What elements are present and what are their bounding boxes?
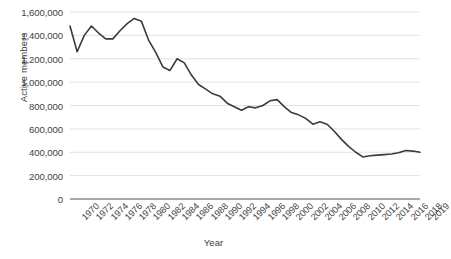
y-axis-tick-label: 400,000	[29, 147, 63, 158]
x-axis-title: Year	[0, 237, 427, 248]
y-axis-tick-label: 0	[58, 194, 63, 205]
data-series-line	[70, 18, 420, 157]
y-axis-tick-label: 1,000,000	[21, 77, 63, 88]
y-axis-tick-label: 600,000	[29, 123, 63, 134]
plot-svg	[70, 12, 420, 199]
y-axis-tick-labels: 1,600,0001,400,0001,200,0001,000,000800,…	[0, 0, 68, 205]
x-axis-tick-labels: 1970197219741976197819801982198419861988…	[70, 201, 422, 241]
y-axis-tick-label: 200,000	[29, 170, 63, 181]
y-axis-tick-label: 1,600,000	[21, 7, 63, 18]
y-axis-tick-label: 800,000	[29, 100, 63, 111]
y-axis-tick-label: 1,400,000	[21, 30, 63, 41]
y-axis-tick-label: 1,200,000	[21, 53, 63, 64]
plot-area	[70, 12, 420, 199]
gridlines	[70, 12, 420, 199]
